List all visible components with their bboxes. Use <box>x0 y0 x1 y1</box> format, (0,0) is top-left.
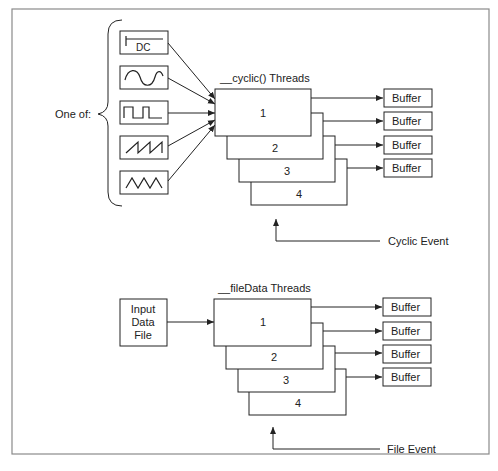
svg-text:Buffer: Buffer <box>392 139 421 151</box>
svg-text:2: 2 <box>272 142 278 154</box>
file-buffer-2: Buffer <box>383 322 431 340</box>
svg-text:Buffer: Buffer <box>391 348 420 360</box>
signal-source-sine <box>120 66 168 89</box>
filedata-threads-title: __fileData Threads <box>217 282 311 294</box>
file-buffer-1: Buffer <box>383 298 431 316</box>
file-buffer-3: Buffer <box>383 345 431 363</box>
cyclic-buffer-1: Buffer <box>384 89 432 107</box>
signal-source-triangle <box>120 171 168 194</box>
input-data-file: Input Data File <box>120 299 167 346</box>
svg-text:Buffer: Buffer <box>392 92 421 104</box>
svg-text:Data: Data <box>131 316 155 328</box>
svg-text:File: File <box>134 329 152 341</box>
svg-text:Buffer: Buffer <box>392 115 421 127</box>
diagram-canvas: One of: DC __cyclic() Threads 4 3 <box>0 0 498 471</box>
cyclic-buffer-4: Buffer <box>384 159 432 177</box>
svg-text:4: 4 <box>296 188 302 200</box>
svg-text:Buffer: Buffer <box>392 162 421 174</box>
signal-source-sawtooth <box>120 136 168 159</box>
cyclic-thread-1: 1 <box>215 89 311 136</box>
cyclic-buffer-2: Buffer <box>384 112 432 130</box>
one-of-label: One of: <box>55 108 91 120</box>
signal-source-dc: DC <box>120 31 168 54</box>
svg-text:3: 3 <box>284 165 290 177</box>
svg-text:1: 1 <box>260 107 266 119</box>
svg-text:4: 4 <box>295 397 301 409</box>
file-buffer-4: Buffer <box>383 368 431 386</box>
signal-source-square <box>120 101 168 124</box>
cyclic-threads-title: __cyclic() Threads <box>219 72 310 84</box>
svg-text:Input: Input <box>131 303 155 315</box>
dc-label: DC <box>136 42 150 53</box>
cyclic-buffer-3: Buffer <box>384 136 432 154</box>
cyclic-event-label: Cyclic Event <box>388 235 449 247</box>
svg-text:Buffer: Buffer <box>391 371 420 383</box>
svg-text:1: 1 <box>260 316 266 328</box>
svg-text:Buffer: Buffer <box>391 325 420 337</box>
file-thread-1: 1 <box>214 299 311 346</box>
svg-text:2: 2 <box>271 351 277 363</box>
svg-text:3: 3 <box>283 374 289 386</box>
svg-text:Buffer: Buffer <box>391 301 420 313</box>
file-event-label: File Event <box>387 443 436 455</box>
